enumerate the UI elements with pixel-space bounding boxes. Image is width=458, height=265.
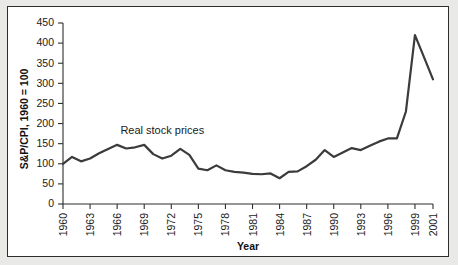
x-tick-label: 2001 [427, 213, 439, 237]
y-axis-title: S&P/CPI, 1960 = 100 [18, 69, 30, 170]
x-tick-label: 1978 [219, 213, 231, 237]
x-tick-label: 1963 [84, 213, 96, 237]
x-tick-label: 1999 [409, 213, 421, 237]
x-tick-label: 1969 [138, 213, 150, 237]
x-axis-title: Year [237, 240, 259, 252]
x-tick-label: 1984 [274, 213, 286, 237]
y-tick-label: 300 [36, 77, 54, 89]
y-tick-label: 100 [36, 157, 54, 169]
y-tick-label: 0 [48, 197, 54, 209]
x-tick-label: 1975 [192, 213, 204, 237]
x-tick-label: 1981 [247, 213, 259, 237]
x-tick-label: 1960 [57, 213, 69, 237]
x-tick-label: 1993 [355, 213, 367, 237]
axis-lines [63, 23, 433, 204]
y-tick-label: 250 [36, 97, 54, 109]
x-tick-label: 1996 [382, 213, 394, 237]
chart-figure-frame: S&P/CPI, 1960 = 100 05010015020025030035… [7, 6, 449, 257]
y-tick-label: 150 [36, 137, 54, 149]
y-tick-label: 200 [36, 117, 54, 129]
y-axis-ticks: 050100150200250300350400450 [36, 16, 63, 209]
x-tick-label: 1990 [328, 213, 340, 237]
x-axis-ticks: 1960196319661969197219751978198119841987… [57, 204, 439, 236]
x-tick-label: 1966 [111, 213, 123, 237]
real-stock-prices-line-chart: S&P/CPI, 1960 = 100 05010015020025030035… [8, 7, 448, 256]
y-tick-label: 450 [36, 16, 54, 28]
y-tick-label: 50 [42, 177, 54, 189]
x-tick-label: 1987 [301, 213, 313, 237]
y-tick-label: 350 [36, 57, 54, 69]
series-line-real-stock-prices [63, 35, 433, 178]
x-tick-label: 1972 [165, 213, 177, 237]
series-annotation-label: Real stock prices [120, 124, 204, 136]
y-tick-label: 400 [36, 36, 54, 48]
